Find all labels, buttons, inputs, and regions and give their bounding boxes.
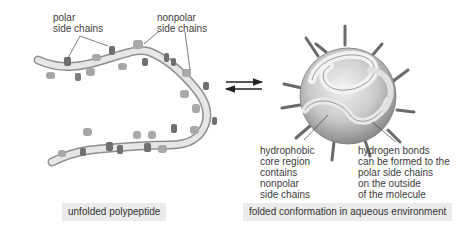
caption-folded-conformation: folded conformation in aqueous environme… — [243, 203, 452, 221]
equilibrium-arrows — [226, 82, 262, 89]
folded-protein — [282, 26, 414, 160]
caption-unfolded-polypeptide: unfolded polypeptide — [62, 203, 166, 221]
label-nonpolar-side-chains: nonpolar side chains — [157, 12, 207, 34]
label-hydrophobic-core: hydrophobic core region contains nonpola… — [260, 145, 314, 200]
label-hydrogen-bonds: hydrogen bonds can be formed to the pola… — [358, 145, 450, 200]
unfolded-polypeptide — [38, 32, 217, 162]
label-polar-side-chains: polar side chains — [53, 12, 103, 34]
